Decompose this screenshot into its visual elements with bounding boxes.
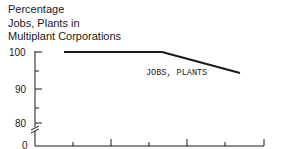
chart-plot: 100 90 80 0 JOBS, PLANTS — [0, 0, 287, 149]
y-label-80: 80 — [15, 118, 27, 129]
series-label: JOBS, PLANTS — [146, 68, 207, 78]
y-label-100: 100 — [9, 47, 26, 58]
y-label-90: 90 — [15, 84, 27, 95]
y-label-0: 0 — [22, 140, 28, 149]
